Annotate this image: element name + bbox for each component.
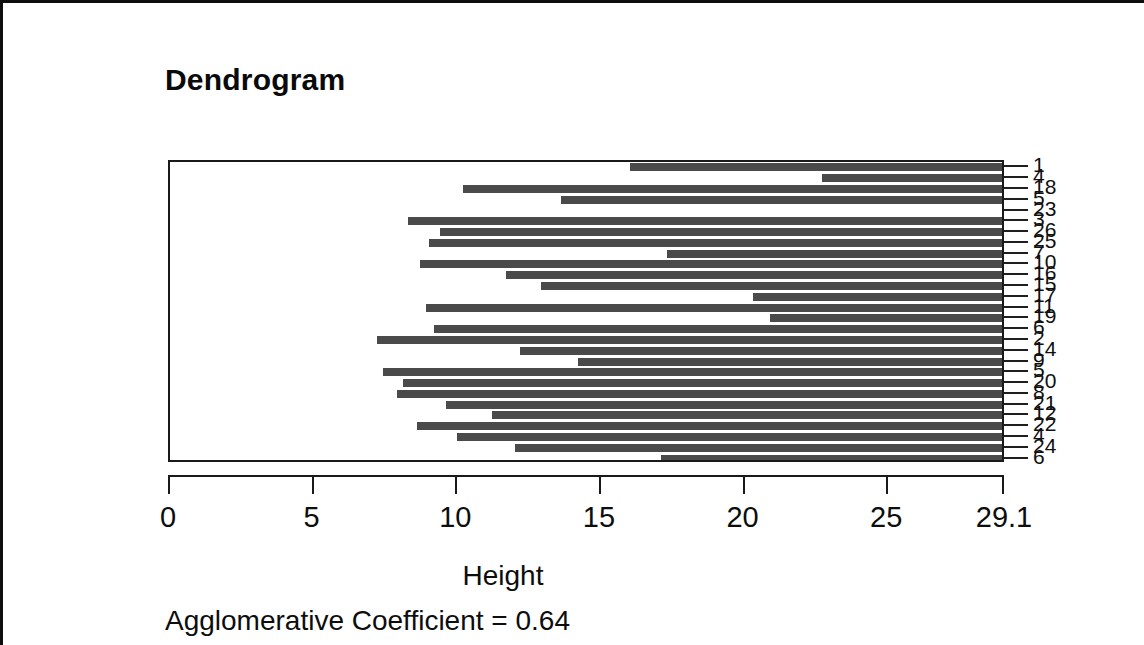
x-axis-tick-label: 20 (726, 501, 758, 534)
x-axis-tick (312, 475, 314, 494)
leaf-tick (1004, 187, 1028, 189)
banner-bar (397, 390, 1004, 398)
x-axis-tick (1002, 475, 1004, 494)
leaf-tick (1004, 435, 1028, 437)
x-axis-line (168, 475, 1004, 477)
leaf-tick (1004, 338, 1028, 340)
leaf-tick (1004, 381, 1028, 383)
leaf-tick (1004, 403, 1028, 405)
agglomerative-coefficient-caption: Agglomerative Coefficient = 0.64 (165, 605, 570, 637)
banner-bar (408, 217, 1004, 225)
leaf-tick (1004, 209, 1028, 211)
banner-bar (426, 304, 1004, 312)
x-axis-tick (455, 475, 457, 494)
x-axis-tick-label: 15 (583, 501, 615, 534)
leaf-tick (1004, 446, 1028, 448)
dendrogram-figure: Dendrogram 14185233262571016151711196214… (0, 0, 1144, 645)
banner-bar (434, 325, 1004, 333)
banner-bar (661, 455, 1004, 462)
x-axis-tick (886, 475, 888, 494)
banner-bar (417, 422, 1004, 430)
x-axis-tick-label: 5 (304, 501, 320, 534)
leaf-label: 6 (1033, 447, 1045, 467)
banner-bar (446, 401, 1004, 409)
leaf-tick (1004, 230, 1028, 232)
x-axis-tick (168, 475, 170, 494)
page-title: Dendrogram (165, 63, 345, 97)
x-axis-tick-label: 25 (870, 501, 902, 534)
leaf-tick (1004, 284, 1028, 286)
leaf-tick (1004, 349, 1028, 351)
leaf-tick (1004, 273, 1028, 275)
banner-bar (578, 358, 1004, 366)
leaf-tick (1004, 424, 1028, 426)
x-axis-tick-label: 10 (439, 501, 471, 534)
x-axis-tick (743, 475, 745, 494)
banner-bar (753, 293, 1004, 301)
leaf-tick (1004, 252, 1028, 254)
leaf-tick (1004, 457, 1028, 459)
leaf-label-column: 1418523326257101615171119621495208211222… (1033, 160, 1093, 462)
banner-bar (630, 163, 1004, 171)
banner-bar (403, 379, 1004, 387)
banner-bar (667, 250, 1004, 258)
banner-bar (770, 314, 1004, 322)
banner-bar (541, 282, 1004, 290)
plot-panel (168, 160, 1004, 462)
banner-bar (429, 239, 1004, 247)
leaf-tick (1004, 413, 1028, 415)
leaf-tick (1004, 165, 1028, 167)
banner-bar (377, 336, 1004, 344)
leaf-tick (1004, 327, 1028, 329)
leaf-tick-column (1004, 160, 1030, 462)
leaf-tick (1004, 241, 1028, 243)
leaf-tick (1004, 198, 1028, 200)
leaf-tick (1004, 316, 1028, 318)
leaf-tick (1004, 360, 1028, 362)
banner-bar (383, 368, 1004, 376)
x-axis-title: Height (3, 560, 1003, 592)
banner-bar (520, 347, 1004, 355)
leaf-tick (1004, 295, 1028, 297)
banner-bar (506, 271, 1004, 279)
banner-bar (457, 433, 1004, 441)
leaf-tick (1004, 392, 1028, 394)
leaf-tick (1004, 176, 1028, 178)
x-axis-tick-label: 0 (160, 501, 176, 534)
banner-bar (463, 185, 1004, 193)
banner-bar (492, 411, 1004, 419)
x-axis-tick (599, 475, 601, 494)
banner-bar (420, 260, 1004, 268)
x-axis (168, 475, 1004, 495)
leaf-tick (1004, 262, 1028, 264)
banner-bar (822, 174, 1004, 182)
banner-bar (515, 444, 1004, 452)
banner-bar (561, 196, 1004, 204)
x-axis-tick-label: 29.1 (976, 501, 1032, 534)
leaf-tick (1004, 219, 1028, 221)
x-tick-label-group: 051015202529.1 (108, 501, 1068, 541)
banner-bar (440, 228, 1004, 236)
leaf-tick (1004, 306, 1028, 308)
leaf-tick (1004, 370, 1028, 372)
